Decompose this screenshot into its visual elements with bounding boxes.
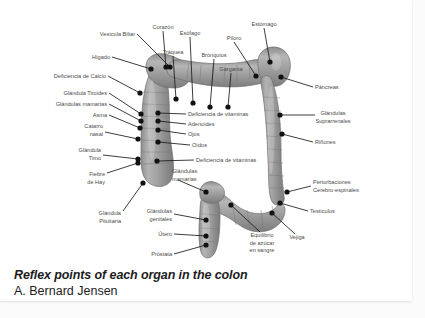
label-glandula-tiroides: Glándula Tiroides	[63, 90, 107, 96]
reflex-point-catarro-nasal[interactable]	[135, 136, 140, 141]
label-line: genitales	[150, 216, 173, 222]
label-deficiencia-vitaminas-1: Deficiencia de vitaminas	[188, 111, 249, 117]
reflex-point-higado[interactable]	[148, 66, 153, 71]
leader-line-glandulas-mamarias	[109, 104, 141, 121]
label-glandulas-mamarias: Glándulas mamarias	[56, 101, 108, 107]
label-glandula-pituitaria: GlándulaPituitaria	[99, 210, 122, 224]
label-ojos: Ojos	[188, 131, 200, 137]
label-estomago: Estómago	[251, 21, 276, 27]
label-fiebre-de-hay: Fiebrede Hay	[87, 171, 105, 185]
label-line: Estómago	[251, 21, 276, 27]
leader-line-higado	[112, 57, 151, 69]
label-deficiencia-vitaminas-2: Deficiencia de vitaminas	[196, 157, 257, 163]
label-line: Catarro	[84, 123, 103, 129]
reflex-point-oidos[interactable]	[155, 139, 160, 144]
reflex-point-piloro[interactable]	[253, 73, 258, 78]
reflex-point-testiculos[interactable]	[277, 200, 282, 205]
label-line: Pituitaria	[99, 218, 122, 224]
label-line: Glándulas mamarias	[56, 101, 108, 107]
figure-card: Vesícula BiliarCorazónEsófagoTráqueaBrón…	[0, 0, 412, 301]
reflex-point-glandulas-mamarias[interactable]	[138, 118, 143, 123]
reflex-point-rinones[interactable]	[279, 131, 284, 136]
label-line: Tráquea	[163, 49, 185, 55]
leader-line-catarro-nasal	[105, 132, 138, 139]
reflex-point-equilibrio-azucar[interactable]	[228, 202, 233, 207]
reflex-point-glandula-pituitaria[interactable]	[140, 180, 145, 185]
leader-line-deficiencia-calcio	[108, 76, 140, 93]
label-vesicula-biliar: Vesícula Biliar	[100, 31, 135, 37]
label-line: Píloro	[227, 35, 242, 41]
reflex-point-perturbaciones[interactable]	[284, 189, 289, 194]
reflex-point-asma[interactable]	[137, 125, 142, 130]
label-line: Glándula Tiroides	[63, 90, 107, 96]
label-glandula-timo: GlándulaTimo	[79, 147, 102, 161]
reflex-point-pancreas[interactable]	[278, 74, 283, 79]
label-line: Asma	[93, 112, 108, 118]
reflex-point-utero[interactable]	[203, 233, 208, 238]
reflex-point-corazon[interactable]	[163, 64, 168, 69]
reflex-point-fiebre-de-hay[interactable]	[135, 160, 140, 165]
label-line: Esófago	[180, 30, 201, 36]
colon-diagram: Vesícula BiliarCorazónEsófagoTráqueaBrón…	[0, 0, 412, 268]
reflex-point-ojos[interactable]	[155, 127, 160, 132]
label-vejiga: Vejiga	[289, 234, 305, 240]
label-testiculos: Testículos	[310, 208, 335, 214]
leader-line-pancreas	[281, 77, 313, 87]
label-line: Deficiencia de vitaminas	[188, 111, 249, 117]
label-line: Glándulas	[320, 110, 345, 116]
reflex-point-bronquios[interactable]	[207, 104, 212, 109]
label-rinones: Riñones	[315, 139, 336, 145]
reflex-point-garganta[interactable]	[225, 104, 230, 109]
sigmoid-rectum-bend	[200, 182, 225, 204]
label-line: Deficiencia de Calcio	[54, 73, 106, 79]
label-glandulas-suprarrenales: GlándulasSuprarrenales	[315, 110, 350, 124]
reflex-point-glandulas-mamarias-2[interactable]	[203, 189, 208, 194]
reflex-point-glandula-tiroides[interactable]	[138, 111, 143, 116]
reflex-point-esofago[interactable]	[190, 100, 195, 105]
label-line: Vejiga	[289, 234, 305, 240]
reflex-point-deficiencia-calcio[interactable]	[137, 90, 142, 95]
label-deficiencia-calcio: Deficiencia de Calcio	[54, 73, 106, 79]
label-line: Glándula	[99, 210, 122, 216]
label-line: Perturbaciones	[313, 179, 351, 185]
reflex-point-deficiencia-vitaminas-1[interactable]	[155, 110, 160, 115]
caption-title: Reflex points of each organ in the colon	[14, 268, 248, 282]
reflex-point-adenoides[interactable]	[155, 118, 160, 123]
leader-line-glandula-timo	[103, 155, 138, 159]
label-line: Corazón	[152, 24, 173, 30]
label-traquea: Tráquea	[163, 49, 185, 55]
label-line: Oídos	[192, 142, 207, 148]
leader-line-perturbaciones	[287, 186, 311, 192]
label-line: Riñones	[315, 139, 336, 145]
label-garganta: Garganta	[219, 66, 243, 72]
label-line: Brónquios	[201, 52, 226, 58]
reflex-point-glandulas-genitales[interactable]	[203, 217, 208, 222]
label-utero: Útero	[158, 231, 172, 237]
reflex-point-estomago[interactable]	[267, 59, 272, 64]
label-line: Próstata	[151, 251, 173, 257]
label-line: de Hay	[87, 179, 105, 185]
label-line: Ojos	[188, 131, 200, 137]
label-line: Páncreas	[315, 84, 339, 90]
label-line: Deficiencia de vitaminas	[196, 157, 257, 163]
label-line: Hígado	[92, 54, 110, 60]
label-line: Garganta	[219, 66, 243, 72]
reflex-point-prostata[interactable]	[203, 242, 208, 247]
label-asma: Asma	[93, 112, 108, 118]
label-oidos: Oídos	[192, 142, 207, 148]
leader-line-glandula-pituitaria	[123, 183, 143, 211]
leader-line-asma	[109, 115, 140, 128]
label-prostata: Próstata	[151, 251, 173, 257]
label-perturbaciones: PerturbacionesCerebro-espinales	[313, 179, 359, 193]
reflex-point-deficiencia-vitaminas-2[interactable]	[154, 158, 159, 163]
reflex-point-glandulas-suprarrenales[interactable]	[277, 112, 282, 117]
reflex-point-vejiga[interactable]	[269, 210, 274, 215]
label-line: Testículos	[310, 208, 335, 214]
colon-illustration	[141, 47, 290, 258]
label-corazon: Corazón	[152, 24, 173, 30]
reflex-point-traquea[interactable]	[173, 96, 178, 101]
label-esofago: Esófago	[180, 30, 201, 36]
label-line: Glándula	[79, 147, 102, 153]
label-equilibrio-azucar: Equilibriode azúcaren sangre	[250, 232, 275, 253]
label-line: Útero	[158, 231, 172, 237]
